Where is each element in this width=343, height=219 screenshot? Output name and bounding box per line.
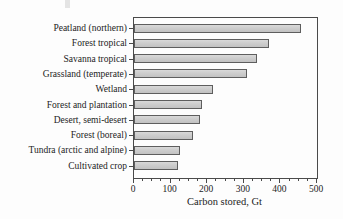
bar-tundra-arctic-and-alpine- — [134, 146, 180, 155]
y-tick — [129, 135, 133, 136]
category-label: Desert, semi-desert — [0, 114, 127, 126]
category-label: Grassland (temperate) — [0, 68, 127, 80]
x-minor-tick — [307, 179, 308, 181]
x-major-tick — [170, 179, 171, 183]
y-tick — [129, 166, 133, 167]
x-minor-tick — [234, 179, 235, 181]
category-label: Cultivated crop — [0, 160, 127, 172]
category-label: Forest tropical — [0, 37, 127, 49]
category-label: Forest (boreal) — [0, 129, 127, 141]
x-major-tick — [206, 179, 207, 183]
x-major-tick — [316, 179, 317, 183]
y-tick — [129, 28, 133, 29]
x-major-tick — [133, 179, 134, 183]
x-minor-tick — [142, 179, 143, 181]
y-tick — [129, 120, 133, 121]
bar-peatland-northern- — [134, 24, 301, 33]
bar-forest-boreal- — [134, 131, 193, 140]
x-minor-tick — [270, 179, 271, 181]
x-major-tick — [279, 179, 280, 183]
category-label: Forest and plantation — [0, 99, 127, 111]
y-tick — [129, 89, 133, 90]
category-label: Peatland (northern) — [0, 22, 127, 34]
bar-forest-tropical — [134, 39, 269, 48]
bar-desert-semi-desert — [134, 115, 200, 124]
y-tick — [129, 59, 133, 60]
y-tick — [129, 150, 133, 151]
x-minor-tick — [215, 179, 216, 181]
bar-chart-figure: Peatland (northern)Forest tropicalSavann… — [0, 0, 343, 219]
bar-forest-and-plantation — [134, 100, 202, 109]
x-tick-label: 200 — [191, 184, 221, 194]
x-tick-label: 300 — [228, 184, 258, 194]
bar-wetland — [134, 85, 213, 94]
x-tick-label: 0 — [118, 184, 148, 194]
y-tick — [129, 43, 133, 44]
x-tick-label: 400 — [264, 184, 294, 194]
x-minor-tick — [261, 179, 262, 181]
category-label: Savanna tropical — [0, 53, 127, 65]
x-minor-tick — [179, 179, 180, 181]
x-minor-tick — [298, 179, 299, 181]
category-label: Tundra (arctic and alpine) — [0, 144, 127, 156]
x-minor-tick — [252, 179, 253, 181]
x-major-tick — [243, 179, 244, 183]
x-minor-tick — [225, 179, 226, 181]
y-tick — [129, 74, 133, 75]
x-axis-title: Carbon stored, Gt — [165, 196, 285, 207]
bar-cultivated-crop — [134, 161, 178, 170]
bar-grassland-temperate- — [134, 69, 247, 78]
x-minor-tick — [151, 179, 152, 181]
x-minor-tick — [188, 179, 189, 181]
x-minor-tick — [160, 179, 161, 181]
x-tick-label: 500 — [301, 184, 331, 194]
x-tick-label: 100 — [155, 184, 185, 194]
category-label: Wetland — [0, 83, 127, 95]
bar-savanna-tropical — [134, 54, 257, 63]
x-minor-tick — [289, 179, 290, 181]
y-tick — [129, 105, 133, 106]
scan-artifact — [65, 0, 70, 8]
x-minor-tick — [197, 179, 198, 181]
